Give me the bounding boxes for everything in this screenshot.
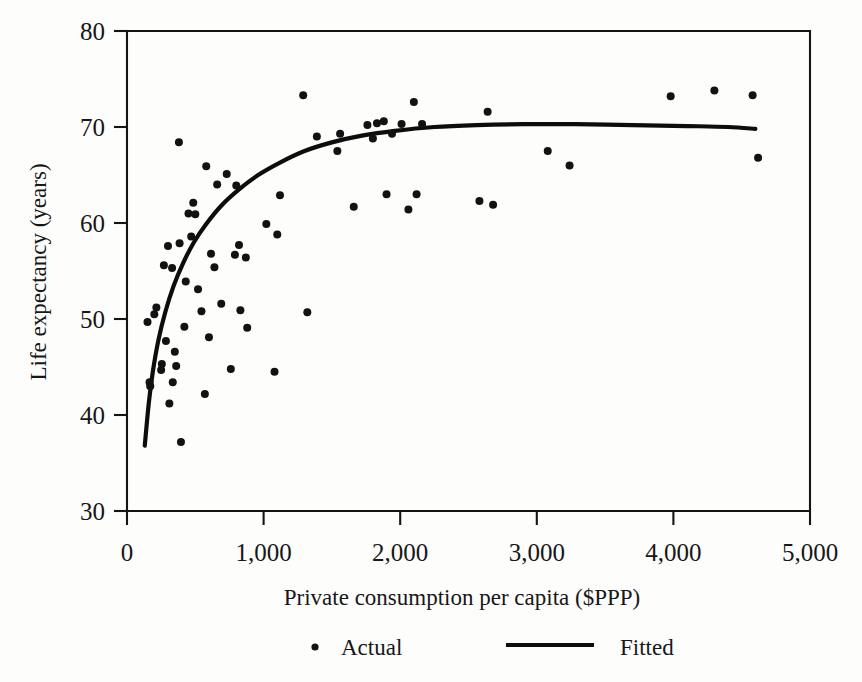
scatter-data-point [413,190,421,198]
scatter-data-point [205,333,213,341]
scatter-data-point [273,231,281,239]
scatter-data-point [146,382,154,390]
scatter-data-point [152,303,160,311]
scatter-data-point [566,161,574,169]
y-tick-label: 40 [80,402,105,429]
scatter-data-point [544,147,552,155]
x-tick-label: 0 [121,539,134,566]
scatter-data-point [175,138,183,146]
scatter-data-point [227,365,235,373]
scatter-data-point [162,337,170,345]
x-tick-label: 4,000 [645,539,701,566]
scatter-data-point [143,318,151,326]
scatter-data-point [242,254,250,262]
scatter-chart: 304050607080 01,0002,0003,0004,0005,000 … [0,0,862,682]
scatter-data-point [191,210,199,218]
scatter-data-point [749,91,757,99]
scatter-data-point [168,264,176,272]
scatter-data-point [164,242,172,250]
scatter-data-point [710,87,718,95]
scatter-data-point [171,348,179,356]
scatter-data-point [236,306,244,314]
actual-data-points [143,87,762,446]
y-tick-label: 30 [80,498,105,525]
scatter-data-point [217,300,225,308]
scatter-data-point [303,308,311,316]
scatter-data-point [232,182,240,190]
scatter-data-point [187,232,195,240]
scatter-data-point [202,162,210,170]
scatter-data-point [189,199,197,207]
x-axis-title: Private consumption per capita ($PPP) [284,585,640,610]
plot-frame [127,31,810,511]
x-tick-label: 3,000 [509,539,565,566]
scatter-data-point [194,285,202,293]
chart-legend: Actual Fitted [311,635,674,660]
scatter-data-point [336,130,344,138]
x-tick-label: 1,000 [235,539,291,566]
scatter-data-point [180,323,188,331]
scatter-data-point [271,368,279,376]
scatter-data-point [276,191,284,199]
x-tick-label: 5,000 [782,539,838,566]
scatter-data-point [172,362,180,370]
scatter-data-point [243,324,251,332]
scatter-data-point [177,438,185,446]
scatter-data-point [410,98,418,106]
scatter-data-point [299,91,307,99]
scatter-data-point [369,135,377,143]
scatter-data-point [489,201,497,209]
fitted-curve-series [145,124,756,446]
scatter-data-point [667,92,675,100]
y-tick-label: 60 [80,210,105,237]
y-tick-label: 80 [80,18,105,45]
scatter-data-point [388,130,396,138]
legend-actual-marker-icon [311,643,318,650]
scatter-data-point [207,250,215,258]
x-tick-label: 2,000 [372,539,428,566]
y-axis-tick-labels: 304050607080 [80,18,105,525]
scatter-data-point [160,261,168,269]
scatter-data-point [373,119,381,127]
x-axis-ticks [127,511,810,525]
scatter-data-point [169,378,177,386]
x-axis-tick-labels: 01,0002,0003,0004,0005,000 [121,539,838,566]
scatter-data-point [333,147,341,155]
chart-figure: 304050607080 01,0002,0003,0004,0005,000 … [0,0,862,682]
scatter-data-point [262,220,270,228]
scatter-data-point [380,117,388,125]
y-axis-ticks [114,31,127,511]
scatter-data-point [165,399,173,407]
scatter-data-point [484,108,492,116]
scatter-data-point [404,206,412,214]
y-axis-title: Life expectancy (years) [26,163,51,380]
scatter-data-point [201,390,209,398]
scatter-data-point [158,360,166,368]
scatter-data-point [235,241,243,249]
scatter-data-point [350,203,358,211]
scatter-data-point [184,209,192,217]
scatter-data-point [363,121,371,129]
scatter-data-point [231,251,239,259]
scatter-data-point [383,190,391,198]
legend-fitted-label: Fitted [620,635,674,660]
scatter-data-point [398,120,406,128]
y-tick-label: 50 [80,306,105,333]
scatter-data-point [197,307,205,315]
y-tick-label: 70 [80,114,105,141]
scatter-data-point [754,154,762,162]
scatter-data-point [223,170,231,178]
scatter-data-point [210,263,218,271]
scatter-data-point [176,239,184,247]
scatter-data-point [475,197,483,205]
scatter-data-point [418,120,426,128]
scatter-data-point [213,181,221,189]
scatter-data-point [182,278,190,286]
scatter-data-point [313,133,321,141]
legend-actual-label: Actual [341,635,402,660]
